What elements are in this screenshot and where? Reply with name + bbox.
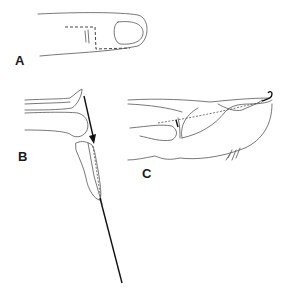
illustration-canvas — [0, 0, 283, 292]
panel-label-c: C — [142, 167, 151, 180]
panel-a-finger — [38, 13, 147, 56]
panel-label-a: A — [15, 54, 24, 67]
panel-c-finger — [128, 92, 272, 160]
panel-label-b: B — [18, 150, 27, 163]
panel-b-finger — [25, 89, 122, 283]
